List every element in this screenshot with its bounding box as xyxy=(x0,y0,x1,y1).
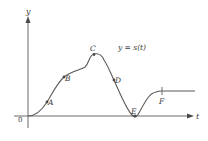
y-axis-arrow-icon xyxy=(26,16,31,23)
point-a-label: A xyxy=(47,98,54,107)
point-e-label: E xyxy=(130,107,137,116)
t-axis xyxy=(14,114,194,119)
curve-s-of-t xyxy=(28,54,195,117)
point-c-marker xyxy=(93,53,96,56)
point-f-label: F xyxy=(158,97,165,106)
y-axis-label: y xyxy=(25,7,31,16)
point-b-label: B xyxy=(64,74,71,83)
position-time-graph: y t 0 y = s(t) A B C D E F xyxy=(0,0,208,141)
point-c-label: C xyxy=(90,44,96,53)
t-axis-arrow-icon xyxy=(187,114,194,119)
function-label: y = s(t) xyxy=(117,43,146,52)
t-axis-label: t xyxy=(196,112,200,121)
y-axis xyxy=(26,16,31,128)
point-d-label: D xyxy=(114,76,121,85)
origin-label: 0 xyxy=(18,116,22,124)
